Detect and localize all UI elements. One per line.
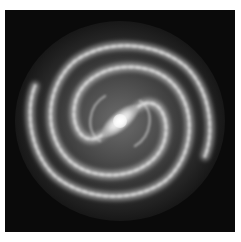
galaxy-core xyxy=(113,114,127,128)
galaxy-image xyxy=(5,10,235,232)
